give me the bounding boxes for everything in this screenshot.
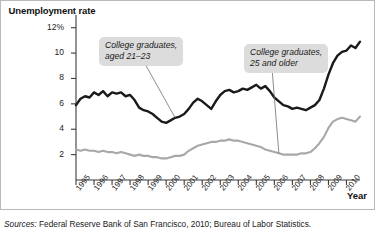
source-text: Federal Reserve Bank of San Francisco, 2… [37, 219, 311, 229]
y-tick-label: 2 [34, 149, 64, 159]
unemployment-rate-chart-figure: Unemployment rate 24681012% 199519961997… [0, 0, 375, 239]
y-tick-label: 8 [34, 72, 64, 82]
callout-line-2: 25 and older [250, 58, 322, 69]
callout-leader-line [272, 68, 279, 153]
source-label: Sources: [4, 219, 37, 229]
callout-leader-line [144, 62, 175, 118]
source-note: Sources: Federal Reserve Bank of San Fra… [4, 219, 311, 229]
series-line [76, 117, 360, 159]
callout-line-2: aged 21–23 [105, 51, 177, 62]
callout-line-1: College graduates, [105, 40, 177, 51]
y-tick-label: 12% [34, 22, 64, 32]
y-tick-label: 4 [34, 123, 64, 133]
y-tick-label: 10 [34, 47, 64, 57]
y-tick-label: 6 [34, 98, 64, 108]
callout-college-graduates-25-older: College graduates, 25 and older [244, 44, 328, 73]
x-axis-title: Year [347, 190, 367, 201]
callout-college-graduates-21-23: College graduates, aged 21–23 [99, 37, 183, 66]
callout-line-1: College graduates, [250, 47, 322, 58]
